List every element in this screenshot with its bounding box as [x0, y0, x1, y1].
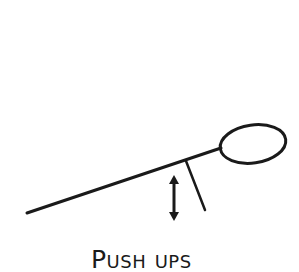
diagram-caption: Push ups [91, 247, 192, 272]
up-down-arrow-icon [169, 175, 179, 221]
head-ellipse [218, 121, 289, 168]
arm-line [186, 161, 205, 210]
body-line [27, 148, 221, 213]
